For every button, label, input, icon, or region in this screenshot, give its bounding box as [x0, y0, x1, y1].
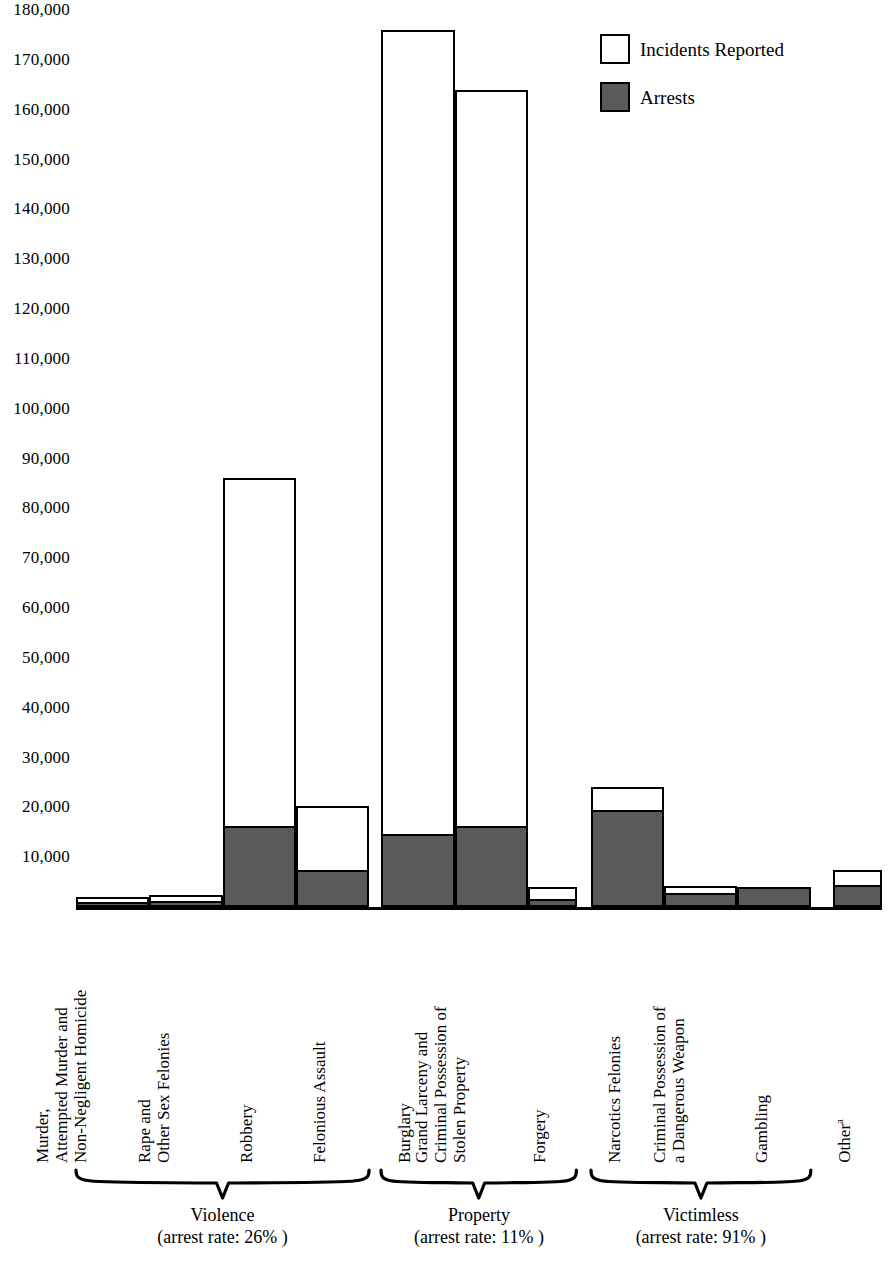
- legend-label-arrests: Arrests: [640, 88, 695, 107]
- group-caption-violence: Violence(arrest rate: 26% ): [72, 1204, 373, 1248]
- crime-incidents-arrests-chart: 180,000170,000160,000150,000140,000130,0…: [0, 0, 892, 1271]
- category-label-forgery: Forgery: [530, 1109, 549, 1163]
- category-label-rape: Rape andOther Sex Felonies: [135, 1033, 173, 1163]
- x-axis-baseline: [76, 907, 882, 910]
- group-name: Property: [377, 1204, 580, 1226]
- bar-arrests: [591, 810, 664, 907]
- legend-label-incidents: Incidents Reported: [640, 40, 784, 59]
- y-axis-tick: 180,000: [0, 1, 70, 18]
- bar-group: [528, 887, 577, 907]
- y-axis-tick: 140,000: [0, 200, 70, 217]
- bar-incidents-reported: [455, 90, 528, 907]
- bar-arrests: [528, 899, 577, 907]
- category-label-line: Forgery: [530, 1109, 549, 1163]
- group-name: Victimless: [587, 1204, 815, 1226]
- y-axis-tick: 30,000: [0, 749, 70, 766]
- category-label-weapon: Criminal Possession ofa Dangerous Weapon: [650, 1006, 688, 1163]
- legend-item-arrests: Arrests: [600, 82, 784, 112]
- legend-swatch-incidents-icon: [600, 34, 630, 64]
- y-axis-tick: 120,000: [0, 300, 70, 317]
- brace-property: [377, 1168, 580, 1202]
- y-axis-tick: 50,000: [0, 649, 70, 666]
- category-label-larceny: Grand Larceny andCriminal Possession ofS…: [412, 1006, 469, 1163]
- bar-arrests: [76, 902, 149, 907]
- bar-group: [76, 897, 149, 907]
- category-label-line: Rape and: [135, 1033, 154, 1163]
- y-axis-tick: 20,000: [0, 798, 70, 815]
- category-label-line: Othera: [830, 1119, 854, 1163]
- category-label-line: Narcotics Felonies: [605, 1036, 624, 1163]
- bar-arrests: [149, 901, 222, 907]
- bar-arrests: [296, 870, 369, 907]
- group-caption-victimless: Victimless(arrest rate: 91% ): [587, 1204, 815, 1248]
- legend: Incidents Reported Arrests: [600, 34, 784, 130]
- group-arrest-rate: (arrest rate: 91% ): [587, 1226, 815, 1248]
- bar-group: [223, 478, 296, 907]
- category-label-robbery: Robbery: [237, 1104, 256, 1163]
- category-label-line: Gambling: [752, 1095, 771, 1163]
- brace-victimless: [587, 1168, 815, 1202]
- y-axis-tick: 40,000: [0, 699, 70, 716]
- category-label-line: a Dangerous Weapon: [669, 1006, 688, 1163]
- y-axis-tick: 160,000: [0, 101, 70, 118]
- category-label-line: Murder,: [33, 990, 52, 1163]
- y-axis: 180,000170,000160,000150,000140,000130,0…: [0, 0, 70, 920]
- category-label-line: Robbery: [237, 1104, 256, 1163]
- y-axis-tick: 80,000: [0, 499, 70, 516]
- category-label-line: Other Sex Felonies: [154, 1033, 173, 1163]
- category-label-line: Criminal Possession of: [650, 1006, 669, 1163]
- category-labels: Murder,Attempted Murder andNon-Negligent…: [76, 913, 882, 1163]
- y-axis-tick: 100,000: [0, 400, 70, 417]
- group-arrest-rate: (arrest rate: 11% ): [377, 1226, 580, 1248]
- y-axis-tick: 110,000: [0, 350, 70, 367]
- bar-group: [381, 30, 454, 907]
- y-axis-tick: 10,000: [0, 848, 70, 865]
- bar-arrests: [664, 893, 737, 907]
- category-label-line: Stolen Property: [450, 1006, 469, 1163]
- bar-group: [591, 787, 664, 907]
- category-label-line: Attempted Murder and: [52, 990, 71, 1163]
- y-axis-tick: 90,000: [0, 450, 70, 467]
- legend-swatch-arrests-icon: [600, 82, 630, 112]
- y-axis-tick: 130,000: [0, 250, 70, 267]
- bar-group: [833, 870, 882, 907]
- bar-arrests: [223, 826, 296, 907]
- group-braces: Violence(arrest rate: 26% )Property(arre…: [76, 1168, 882, 1271]
- y-axis-tick: 170,000: [0, 51, 70, 68]
- bar-group: [664, 886, 737, 907]
- bar-group: [149, 895, 222, 907]
- category-label-other: Othera: [830, 1119, 854, 1163]
- bar-group: [296, 806, 369, 907]
- bar-arrests: [381, 834, 454, 907]
- y-axis-tick: 70,000: [0, 549, 70, 566]
- y-axis-tick: 60,000: [0, 599, 70, 616]
- category-label-gambling: Gambling: [752, 1095, 771, 1163]
- bar-incidents-reported: [381, 30, 454, 907]
- category-label-murder: Murder,Attempted Murder andNon-Negligent…: [33, 990, 90, 1163]
- category-label-line: Grand Larceny and: [412, 1006, 431, 1163]
- brace-violence: [72, 1168, 373, 1202]
- category-label-line: Non-Negligent Homicide: [71, 990, 90, 1163]
- bar-arrests: [455, 826, 528, 907]
- category-label-narcotics: Narcotics Felonies: [605, 1036, 624, 1163]
- group-arrest-rate: (arrest rate: 26% ): [72, 1226, 373, 1248]
- bar-group: [737, 887, 810, 907]
- footnote-marker: a: [833, 1119, 845, 1124]
- bar-group: [455, 90, 528, 907]
- legend-item-incidents-reported: Incidents Reported: [600, 34, 784, 64]
- category-label-line: Felonious Assault: [310, 1042, 329, 1163]
- bar-arrests: [737, 887, 810, 907]
- plot-area: [76, 10, 882, 910]
- y-axis-tick: 150,000: [0, 151, 70, 168]
- category-label-line: Criminal Possession of: [431, 1006, 450, 1163]
- group-name: Violence: [72, 1204, 373, 1226]
- category-label-assault: Felonious Assault: [310, 1042, 329, 1163]
- group-caption-property: Property(arrest rate: 11% ): [377, 1204, 580, 1248]
- bar-arrests: [833, 885, 882, 907]
